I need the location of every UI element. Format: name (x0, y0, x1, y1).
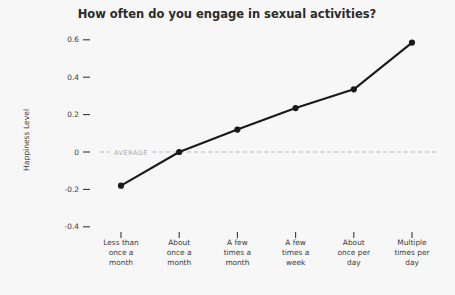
y-axis-tick-label: -0.2 (65, 185, 79, 194)
x-axis-tick-label: times a (282, 248, 309, 257)
y-axis-tick-label: 0.2 (67, 110, 79, 119)
y-axis-tick-label: 0 (74, 148, 79, 157)
data-point-marker (118, 183, 124, 189)
page-title: How often do you engage in sexual activi… (78, 7, 377, 21)
x-axis-tick-label: once a (109, 248, 134, 257)
x-axis-tick-label: month (109, 258, 133, 267)
x-axis-tick-label: once a (167, 248, 192, 257)
x-axis-tick-label: month (225, 258, 249, 267)
chart-container: How often do you engage in sexual activi… (0, 0, 455, 295)
data-point-marker (351, 86, 357, 92)
x-axis-tick-label: About (343, 238, 365, 247)
data-point-marker (234, 126, 240, 132)
data-point-marker (409, 40, 415, 46)
x-axis-tick-label: Less than (103, 238, 139, 247)
happiness-line-chart: How often do you engage in sexual activi… (0, 0, 455, 295)
x-axis-tick-label: A few (285, 238, 306, 247)
x-axis-tick-label: A few (227, 238, 248, 247)
x-axis-tick-label: once per (338, 248, 371, 257)
x-axis-tick-label: day (405, 258, 419, 267)
y-axis-tick-label: -0.4 (65, 222, 80, 231)
y-axis-tick-label: 0.4 (67, 73, 79, 82)
y-axis-title: Happiness Level (22, 109, 31, 171)
x-axis-tick-label: times a (224, 248, 251, 257)
x-axis-tick-label: day (347, 258, 361, 267)
average-label: AVERAGE (114, 149, 148, 157)
data-point-marker (176, 149, 182, 155)
x-axis-tick-label: times per (394, 248, 430, 257)
x-axis-tick-label: week (286, 258, 306, 267)
x-axis-tick-label: About (168, 238, 190, 247)
x-axis-tick-label: month (167, 258, 191, 267)
x-axis-tick-label: Multiple (397, 238, 427, 247)
data-point-marker (293, 105, 299, 111)
y-axis-tick-label: 0.6 (67, 35, 79, 44)
